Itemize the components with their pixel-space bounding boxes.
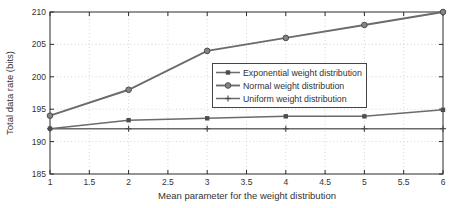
series-0-marker-square: [126, 118, 130, 122]
series-1-marker-circle: [440, 9, 446, 15]
y-tick-label: 205: [32, 39, 46, 49]
y-tick-label: 200: [32, 72, 46, 82]
series-1-marker-circle: [47, 113, 53, 119]
x-tick-label: 4.5: [319, 177, 331, 187]
series-0-marker-square: [362, 114, 366, 118]
series-line-0: [50, 110, 443, 129]
x-tick-label: 5.5: [398, 177, 410, 187]
legend: Exponential weight distributionNormal we…: [212, 63, 367, 108]
y-tick-label: 210: [32, 7, 46, 17]
legend-marker-sample-circle: [215, 80, 241, 91]
series-0-marker-square: [441, 108, 445, 112]
legend-label: Normal weight distribution: [243, 81, 344, 91]
x-tick-label: 4: [283, 177, 288, 187]
x-tick-label: 2.5: [162, 177, 174, 187]
x-tick-label: 6: [441, 177, 446, 187]
series-0-marker-square: [205, 116, 209, 120]
x-tick-label: 1: [48, 177, 53, 187]
legend-marker-sample-plus: [215, 93, 241, 104]
x-tick-label: 5: [362, 177, 367, 187]
series-1-marker-circle: [126, 87, 132, 93]
x-tick-label: 3: [205, 177, 210, 187]
legend-sample-circle-icon: [225, 83, 231, 89]
legend-item-1: Normal weight distribution: [215, 79, 362, 92]
y-tick-label: 185: [32, 169, 46, 179]
legend-item-2: Uniform weight distribution: [215, 92, 362, 105]
legend-item-0: Exponential weight distribution: [215, 66, 362, 79]
legend-sample-square-icon: [226, 70, 230, 74]
line-chart-figure: 11.522.533.544.555.56185190195200205210 …: [0, 0, 465, 208]
legend-label: Uniform weight distribution: [243, 94, 347, 104]
y-tick-label: 195: [32, 104, 46, 114]
legend-label: Exponential weight distribution: [243, 68, 362, 78]
legend-marker-sample-square: [215, 67, 241, 78]
y-tick-label: 190: [32, 137, 46, 147]
series-1-marker-circle: [283, 35, 289, 41]
x-tick-label: 1.5: [83, 177, 95, 187]
series-1-marker-circle: [362, 22, 368, 28]
series-1-marker-circle: [204, 48, 210, 54]
y-axis-label: Total data rate (bits): [4, 51, 15, 135]
x-axis-label: Mean parameter for the weight distributi…: [158, 190, 336, 201]
series-0-marker-square: [284, 114, 288, 118]
x-tick-label: 2: [126, 177, 131, 187]
x-tick-label: 3.5: [241, 177, 253, 187]
